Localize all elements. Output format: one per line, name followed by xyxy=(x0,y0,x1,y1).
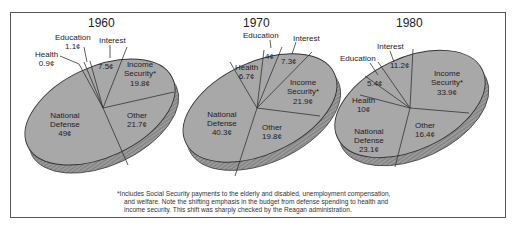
pie-1970 xyxy=(166,32,357,193)
label-1980-other: Other 16.4¢ xyxy=(415,121,435,139)
label-1980-interest-value: 11.2¢ xyxy=(390,61,409,70)
label-1970-education: Education xyxy=(243,31,279,40)
label-1980-income-security: Income Security* 33.9¢ xyxy=(431,69,463,97)
label-1980-national-defense: National Defense 23.1¢ xyxy=(354,127,384,154)
label-1960-education: Education 1.1¢ xyxy=(55,33,91,51)
label-1970-other: Other 19.8¢ xyxy=(262,123,282,141)
label-1970-national-defense: National Defense 40.3¢ xyxy=(207,110,237,137)
label-1980-education: Education xyxy=(340,54,376,63)
year-title-1970: 1970 xyxy=(243,16,270,30)
label-1960-national-defense: National Defense 49¢ xyxy=(50,111,80,138)
label-1980-health: Health 10¢ xyxy=(352,96,375,114)
label-1970-interest-value: 7.3¢ xyxy=(281,57,297,66)
label-1960-health: Health 0.9¢ xyxy=(35,50,58,68)
label-1960-other: Other 21.7¢ xyxy=(127,111,147,129)
footnote: *Includes Social Security payments to th… xyxy=(117,190,407,215)
label-1960-income-security: Income Security* 19.8¢ xyxy=(124,60,156,88)
label-1980-interest: Interest xyxy=(377,42,404,51)
label-1970-health: Health 6.7¢ xyxy=(235,63,258,81)
label-1980-education-value: 5.4¢ xyxy=(367,79,383,88)
label-1960-interest-value: 7.5¢ xyxy=(98,62,114,71)
year-title-1960: 1960 xyxy=(88,16,115,30)
year-title-1980: 1980 xyxy=(396,16,423,30)
label-1960-interest: Interest xyxy=(99,36,126,45)
label-1970-income-security: Income Security* 21.9¢ xyxy=(287,78,319,106)
label-1970-interest: Interest xyxy=(293,34,320,43)
label-1970-education-value: 4¢ xyxy=(265,52,274,61)
